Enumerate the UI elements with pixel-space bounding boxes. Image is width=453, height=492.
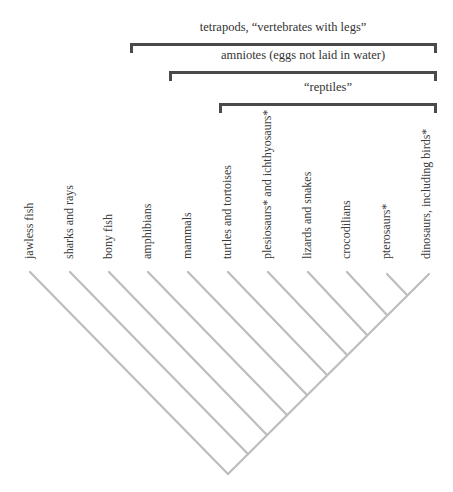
branch-lizards (308, 272, 367, 335)
cladogram: tetrapods, “vertebrates with legs” amnio… (0, 0, 453, 492)
branch-bony-fish (109, 272, 267, 435)
branch-turtles (228, 272, 327, 375)
branch-jawless-fish (30, 272, 228, 474)
branch-mammals (188, 272, 307, 395)
branch-pterosaurs (387, 274, 407, 295)
branch-crocodilians (347, 272, 387, 315)
branch-amphibians (148, 272, 287, 415)
branch-sharks-and-rays (70, 272, 248, 454)
cladogram-tree (0, 0, 453, 492)
branch-plesiosaurs (268, 272, 347, 355)
